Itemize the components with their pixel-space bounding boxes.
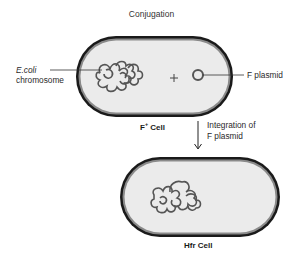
integration-label-line1: Integration of — [207, 120, 255, 130]
integration-label-line2: F plasmid — [207, 131, 243, 141]
hfr-cell-label: Hfr Cell — [184, 241, 212, 250]
chromosome-label-line2: chromosome — [16, 75, 64, 85]
f-plus-cell-body — [76, 36, 233, 117]
f-plus-cell-label: F+ Cell — [140, 121, 165, 132]
f-plus-cell-label-rest: Cell — [148, 123, 165, 132]
hfr-cell-body — [120, 157, 280, 237]
chromosome-label-line1: E.coli — [16, 65, 36, 75]
plasmid-label: F plasmid — [247, 70, 283, 80]
down-arrow-icon — [195, 121, 202, 149]
